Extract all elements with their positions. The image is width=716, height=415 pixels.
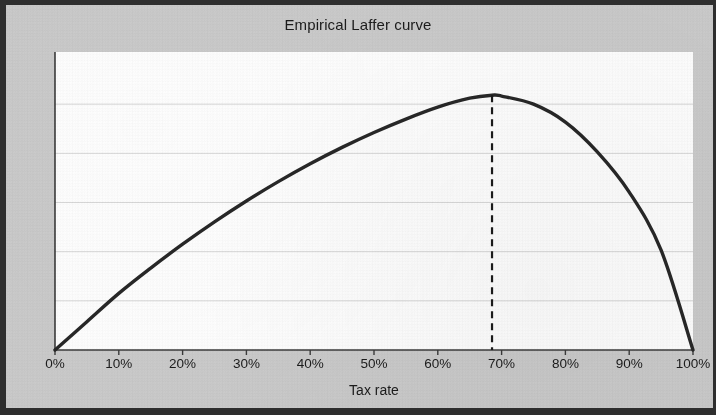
x-axis-tick-label: 60% [424,356,451,371]
laffer-curve-figure: Empirical Laffer curve Tax revenue Tax r… [0,0,716,415]
x-axis-tick-label: 50% [360,356,387,371]
x-axis-tick-label: 0% [45,356,65,371]
x-axis-tick-label: 90% [616,356,643,371]
x-axis-tick-label: 40% [297,356,324,371]
x-axis-tick-label: 30% [233,356,260,371]
plot-background [55,52,693,350]
x-axis-tick-label: 70% [488,356,515,371]
plot-canvas [0,0,716,415]
x-axis-tick-label: 100% [676,356,711,371]
x-axis-label: Tax rate [55,382,693,398]
chart-title: Empirical Laffer curve [0,16,716,33]
x-axis-tick-label: 20% [169,356,196,371]
x-axis-tick-label: 80% [552,356,579,371]
x-axis-tick-label: 10% [105,356,132,371]
